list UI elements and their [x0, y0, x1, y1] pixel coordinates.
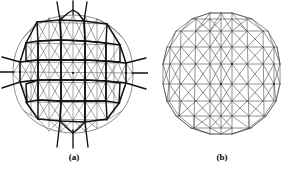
panel-b-caption: (b)	[148, 152, 296, 163]
panel-a-caption: (a)	[0, 152, 148, 163]
figure-container: (a)	[0, 0, 296, 173]
mesh-diagram-a	[0, 0, 148, 150]
figure-panel-b: (b)	[148, 0, 296, 173]
mesh-nodes-b	[220, 63, 275, 85]
mesh-diagram-b	[148, 0, 296, 150]
triangle-mesh-b	[163, 13, 280, 134]
figure-panel-a: (a)	[0, 0, 148, 173]
